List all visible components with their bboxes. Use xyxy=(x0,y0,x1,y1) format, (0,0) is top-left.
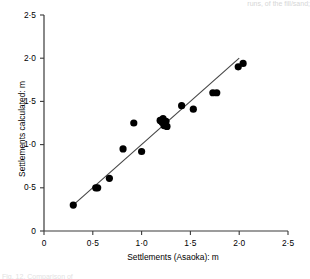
data-point xyxy=(178,102,185,109)
trend-line xyxy=(72,58,239,206)
x-tick-label: 1·5 xyxy=(170,238,210,248)
y-axis-title: Settlements calculated: m xyxy=(17,49,27,209)
x-axis-title: Settlements (Asaoka): m xyxy=(0,252,310,262)
x-tick-label: 0·5 xyxy=(73,238,113,248)
x-tick-label: 2·0 xyxy=(219,238,259,248)
x-tick-label: 1·0 xyxy=(122,238,162,248)
data-point xyxy=(138,148,145,155)
data-point xyxy=(190,106,197,113)
clipped-caption-text: Fig. 12. Comparison of xyxy=(2,272,152,279)
x-tick-label: 0 xyxy=(24,238,64,248)
data-point xyxy=(130,119,137,126)
data-point xyxy=(70,201,77,208)
data-points xyxy=(70,60,247,209)
y-tick-label: 2·5 xyxy=(0,10,36,20)
y-tick-label: 0 xyxy=(0,226,36,236)
x-axis-ticks xyxy=(44,231,288,235)
data-point xyxy=(163,123,170,130)
data-point xyxy=(106,175,113,182)
data-point xyxy=(94,184,101,191)
data-point xyxy=(213,89,220,96)
data-point xyxy=(119,145,126,152)
figure-container: runs, of the fill/sand; 00·51·01·52·02·5… xyxy=(0,0,310,279)
fit-line xyxy=(72,58,239,206)
data-point xyxy=(240,60,247,67)
x-tick-label: 2·5 xyxy=(268,238,308,248)
